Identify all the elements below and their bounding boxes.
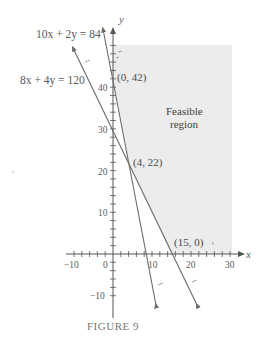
x-axis-ticks [74,251,230,257]
feasible-region-label-line2: region [170,118,199,130]
vertex-label-0-42: (0, 42) [117,71,147,84]
equation-label-8x-4y-120: 8x + 4y = 120 [20,74,85,87]
y-tick-label-10: 10 [98,208,108,218]
equation-label-10x-2y-84: 10x + 2y = 84 [36,28,101,41]
x-tick-label-30: 30 [225,260,235,270]
y-tick-label-30: 30 [98,125,108,135]
y-tick-label-20: 20 [98,167,108,177]
y-axis-label: y [118,13,124,25]
x-tick-label-20: 20 [186,260,196,270]
vertex-label-15-0: (15, 0) [174,236,204,249]
vertex-label-4-22: (4, 22) [133,156,163,169]
y-tick-label-40: 40 [98,83,108,93]
tick-label-0: 0 [103,260,108,270]
feasible-region-label-line1: Feasible [166,105,203,117]
y-tick-label-neg10: −10 [90,291,105,301]
stray-dot [12,171,14,173]
figure-caption: FIGURE 9 [87,320,139,332]
x-axis-label: x [245,248,251,260]
x-tick-label-neg10: −10 [64,260,79,270]
x-tick-label-10: 10 [148,260,158,270]
linear-programming-figure: y x 10x + 2y = 84 8x + 4y = 120 (0, 42) … [0,0,269,340]
